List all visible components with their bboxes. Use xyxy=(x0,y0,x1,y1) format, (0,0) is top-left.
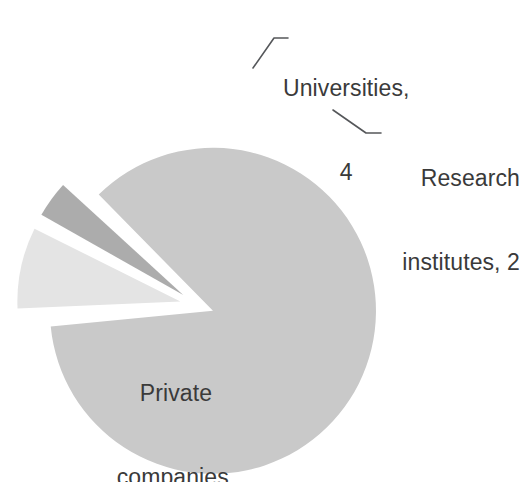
pie-label-universities-line1: Universities, xyxy=(283,74,410,102)
pie-label-universities-line2: 4 xyxy=(283,158,410,186)
pie-chart-figure: Universities, 4 Research institutes, 2 P… xyxy=(0,0,528,482)
pie-label-research-institutes-line1: Research xyxy=(402,164,520,192)
pie-label-research-institutes: Research institutes, 2 xyxy=(402,108,520,332)
pie-label-research-institutes-line2: institutes, 2 xyxy=(402,248,520,276)
pie-label-private-companies-line2: companies, xyxy=(92,463,260,482)
pie-label-private-companies-line1: Private xyxy=(92,379,260,407)
pie-label-private-companies: Private companies, 39 xyxy=(92,323,260,482)
pie-label-universities: Universities, 4 xyxy=(283,18,410,242)
